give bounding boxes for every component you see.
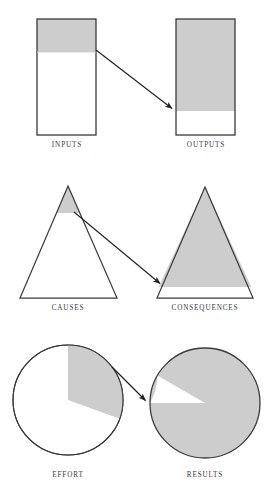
arrow-inputs-to-outputs <box>96 50 172 109</box>
label-outputs: OUTPUTS <box>156 142 256 149</box>
consequences-shaded-region <box>159 187 252 287</box>
figure-inputs <box>37 19 96 135</box>
arrow-causes-to-consequences <box>74 212 160 284</box>
causes-shaded-region <box>56 186 79 213</box>
label-causes: CAUSES <box>18 305 118 312</box>
label-consequences: CONSEQUENCES <box>145 305 265 312</box>
figure-consequences <box>157 187 253 298</box>
label-inputs: INPUTS <box>17 142 117 149</box>
inputs-shaded-region <box>37 19 96 52</box>
figure-causes <box>20 186 117 298</box>
label-effort: EFFORT <box>18 472 118 479</box>
outputs-shaded-region <box>176 19 235 111</box>
proportion-diagram: INPUTS OUTPUTS CAUSES CONSEQUENCES EFFOR… <box>0 0 274 498</box>
diagram-canvas <box>0 0 274 498</box>
figure-outputs <box>176 19 235 135</box>
label-results: RESULTS <box>155 472 255 479</box>
figure-results <box>150 348 260 458</box>
figure-effort <box>13 345 123 455</box>
